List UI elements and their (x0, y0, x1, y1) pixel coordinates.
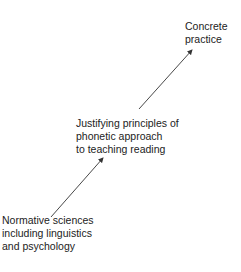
node-line: practice (185, 33, 228, 46)
node-line: Justifying principles of (76, 117, 179, 130)
node-concrete-practice: Concrete practice (185, 20, 228, 46)
node-line: and psychology (2, 240, 94, 253)
arrow-bottom-to-mid (51, 158, 103, 217)
node-line: Normative sciences (2, 214, 94, 227)
arrow-mid-to-top (139, 50, 192, 109)
node-line: phonetic approach (76, 130, 179, 143)
node-line: Concrete (185, 20, 228, 33)
node-normative-sciences: Normative sciences including linguistics… (2, 214, 94, 253)
node-line: including linguistics (2, 227, 94, 240)
node-justifying-principles: Justifying principles of phonetic approa… (76, 117, 179, 156)
node-line: to teaching reading (76, 143, 179, 156)
